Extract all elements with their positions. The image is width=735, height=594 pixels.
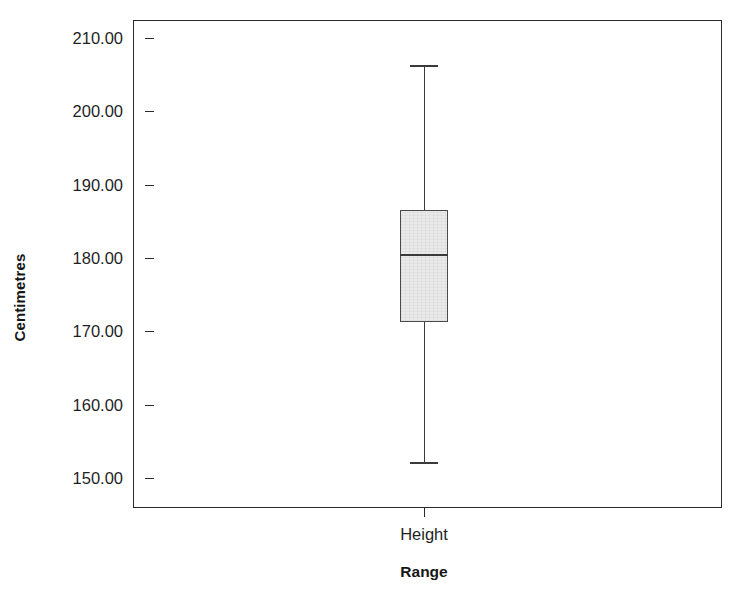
- y-tick-mark-170: [145, 331, 154, 332]
- x-category-label-height: Height: [344, 525, 504, 544]
- boxplot-chart: Centimetres 210.00 200.00 190.00 180.00 …: [0, 0, 735, 594]
- plot-area-frame: [133, 20, 722, 508]
- y-tick-mark-190: [145, 185, 154, 186]
- y-tick-mark-160: [145, 405, 154, 406]
- y-tick-label-210: 210.00: [20, 30, 123, 47]
- y-tick-mark-210: [145, 38, 154, 39]
- y-tick-label-170: 170.00: [20, 323, 123, 340]
- x-tick-mark-height: [424, 508, 425, 517]
- y-tick-mark-150: [145, 478, 154, 479]
- y-tick-label-180: 180.00: [20, 250, 123, 267]
- y-tick-label-160: 160.00: [20, 397, 123, 414]
- y-tick-mark-180: [145, 258, 154, 259]
- y-axis-title: Centimetres: [0, 0, 40, 594]
- y-tick-label-190: 190.00: [20, 177, 123, 194]
- y-tick-label-150: 150.00: [20, 470, 123, 487]
- y-tick-mark-200: [145, 111, 154, 112]
- y-tick-label-200: 200.00: [20, 103, 123, 120]
- x-axis-title: Range: [344, 563, 504, 581]
